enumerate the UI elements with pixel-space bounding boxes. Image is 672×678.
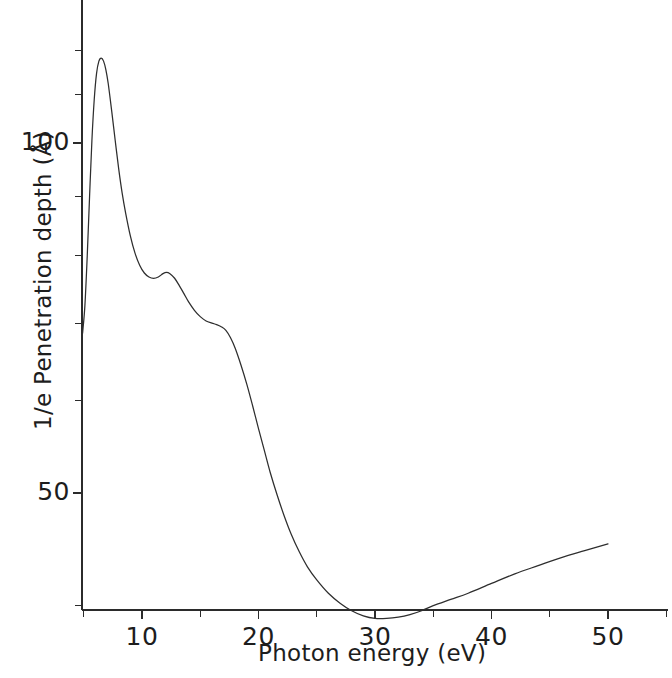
- data-curve-line: [83, 58, 608, 619]
- chart-figure: 10050 1020304050 1/e Penetration depth (…: [0, 0, 672, 678]
- y-axis-tick-label: 50: [0, 477, 70, 506]
- data-series-group: [83, 58, 608, 619]
- x-axis-tick-label: 10: [102, 622, 182, 651]
- y-axis-title: 1/e Penetration depth (Å): [30, 131, 56, 430]
- x-axis-tick-label: 50: [568, 622, 648, 651]
- x-axis-title: Photon energy (eV): [258, 640, 486, 666]
- plot-canvas: [0, 0, 672, 678]
- axes-group: [82, 0, 668, 610]
